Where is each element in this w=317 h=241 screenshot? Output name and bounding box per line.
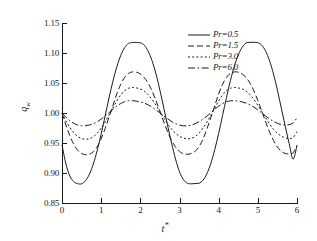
legend-label: Pr=0.5 <box>213 30 238 39</box>
y-tick-label: 0.95 <box>44 139 59 148</box>
legend-line-swatch <box>188 30 210 40</box>
legend-item[interactable]: Pr=1.5 <box>188 40 266 51</box>
legend-item[interactable]: Pr=3.0 <box>188 51 266 62</box>
x-tick-label: 4 <box>209 206 229 215</box>
legend-item[interactable]: Pr=6.0 <box>188 62 266 73</box>
x-tick-label: 3 <box>170 206 190 215</box>
y-tick-label: 1.00 <box>44 109 59 118</box>
y-tick-label: 0.90 <box>44 169 59 178</box>
legend-label: Pr=1.5 <box>213 41 238 50</box>
x-axis-label-star: * <box>164 221 168 230</box>
y-axis-label-text: q <box>18 107 29 112</box>
x-tick-label: 6 <box>287 206 307 215</box>
x-axis-line <box>62 203 298 204</box>
y-tick-mark <box>62 203 67 204</box>
legend-line-swatch <box>188 52 210 62</box>
y-axis-label: qw <box>19 90 33 124</box>
legend-line-swatch <box>188 63 210 73</box>
series-line-6-0 <box>62 101 297 126</box>
x-tick-label: 5 <box>248 206 268 215</box>
chart-figure: 0.850.900.951.001.051.101.150123456 qw t… <box>0 0 317 241</box>
legend: Pr=0.5Pr=1.5Pr=3.0Pr=6.0 <box>188 29 266 73</box>
series-line-3-0 <box>62 87 297 139</box>
x-axis-label: t* <box>150 221 180 234</box>
legend-item[interactable]: Pr=0.5 <box>188 29 266 40</box>
y-tick-label: 1.15 <box>44 19 59 28</box>
y-tick-label: 1.05 <box>44 79 59 88</box>
legend-line-swatch <box>188 41 210 51</box>
x-tick-mark <box>297 198 298 203</box>
x-tick-label: 0 <box>52 206 72 215</box>
y-axis-label-subscript: w <box>24 102 32 107</box>
series-line-1-5 <box>62 72 297 155</box>
legend-label: Pr=3.0 <box>213 52 238 61</box>
legend-label: Pr=6.0 <box>213 63 238 72</box>
x-tick-label: 2 <box>130 206 150 215</box>
x-tick-label: 1 <box>91 206 111 215</box>
y-tick-label: 1.10 <box>44 49 59 58</box>
